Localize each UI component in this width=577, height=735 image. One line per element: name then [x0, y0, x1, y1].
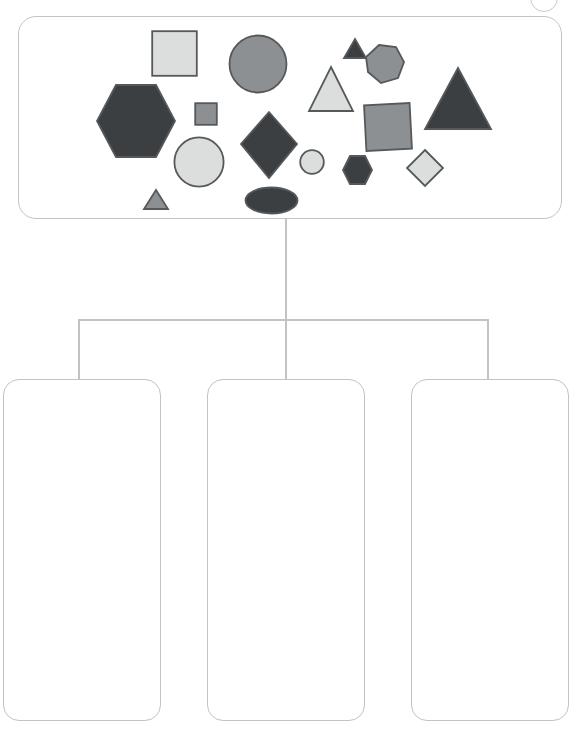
bucket-middle[interactable] — [207, 379, 365, 721]
shape-ellipse-dark-medium[interactable] — [244, 186, 299, 215]
shape-diamond-dark-large[interactable] — [239, 110, 299, 180]
shape-circle-light-medium[interactable] — [173, 136, 225, 188]
shape-triangle-light-medium[interactable] — [307, 65, 355, 113]
bucket-right[interactable] — [411, 379, 569, 721]
connector-branch-right — [487, 319, 489, 379]
source-container[interactable] — [18, 16, 562, 219]
connector-branch-middle — [285, 319, 287, 379]
shape-triangle-dark-large[interactable] — [423, 66, 493, 131]
partial-circle-badge — [530, 0, 558, 12]
shape-square-mid-large[interactable] — [363, 102, 413, 152]
shape-diamond-light-small[interactable] — [405, 148, 445, 188]
bucket-left[interactable] — [3, 379, 161, 721]
shape-square-mid-small[interactable] — [194, 102, 218, 126]
shape-pentagon-mid-medium[interactable] — [364, 43, 406, 85]
shape-circle-light-small[interactable] — [299, 149, 325, 175]
shape-square-light-large[interactable] — [151, 30, 198, 77]
connector-branch-left — [78, 319, 80, 379]
shape-hexagon-dark-large[interactable] — [95, 83, 177, 159]
shape-circle-mid-large[interactable] — [228, 34, 288, 94]
connector-horizontal-bar — [78, 319, 488, 321]
connector-trunk-vertical — [285, 219, 287, 320]
worksheet-canvas — [0, 0, 577, 735]
shape-triangle-mid-tiny[interactable] — [142, 188, 170, 211]
shape-hexagon-dark-small[interactable] — [341, 154, 374, 186]
